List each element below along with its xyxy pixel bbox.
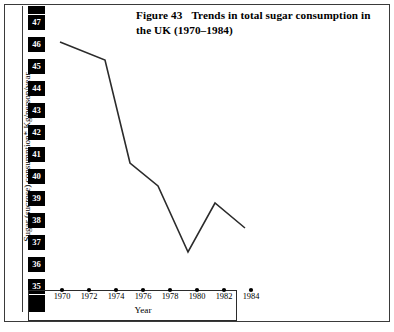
figure-page: Figure 43Trends in total sugar consumpti… [0,0,394,332]
x-tick-label-1980: 1980 [182,292,212,301]
x-tick-label-1982: 1982 [209,292,239,301]
x-tick-label-1978: 1978 [155,292,185,301]
x-tick-label-1984: 1984 [236,292,266,301]
x-tick-label-1976: 1976 [128,292,158,301]
line-chart: 47 46 45 44 43 42 41 40 39 38 37 36 35 S… [0,0,394,332]
x-axis-label: Year [48,305,238,315]
x-tick-label-1972: 1972 [74,292,104,301]
plot-canvas [0,0,394,332]
x-tick-label-1974: 1974 [101,292,131,301]
x-tick-label-1970: 1970 [47,292,77,301]
sugar-consumption-line [60,42,245,252]
